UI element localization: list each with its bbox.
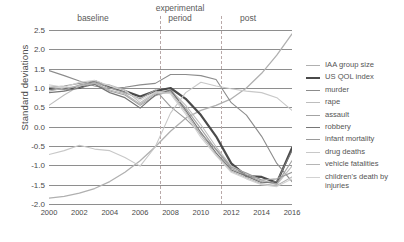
legend-label: robbery	[325, 122, 351, 131]
y-axis-tick: 0.5	[34, 103, 45, 112]
y-axis-tick: -1.5	[31, 180, 45, 189]
legend-swatch-icon	[306, 115, 320, 116]
legend: IAA group sizeUS QOL indexmurderrapeassa…	[306, 60, 404, 193]
legend-swatch-icon	[306, 139, 320, 140]
legend-swatch-icon	[306, 65, 320, 66]
y-axis-title: Standard deviations	[19, 18, 30, 158]
legend-swatch-icon	[306, 90, 320, 91]
y-axis-tick: 1.5	[34, 64, 45, 73]
y-axis-tick: 2.0	[34, 45, 45, 54]
x-axis-tick: 2002	[71, 208, 88, 217]
legend-item[interactable]: vehicle fatalities	[306, 159, 404, 168]
series-line	[49, 84, 292, 183]
legend-label: assault	[325, 110, 349, 119]
series-line	[49, 82, 292, 166]
x-axis-tick: 2014	[253, 208, 270, 217]
series-lines	[49, 30, 292, 204]
plot-area: 2.52.01.51.00.50.0-0.5-1.0-1.5-2.0200020…	[49, 30, 292, 204]
period-label-baseline: baseline	[62, 13, 124, 23]
legend-label: drug deaths	[325, 147, 365, 156]
y-axis-tick: 0.0	[34, 122, 45, 131]
x-axis-tick: 2008	[162, 208, 179, 217]
y-axis-tick: -0.5	[31, 142, 45, 151]
legend-item[interactable]: IAA group size	[306, 60, 404, 69]
series-line	[49, 80, 292, 186]
legend-label: murder	[325, 85, 349, 94]
gridline	[49, 204, 292, 205]
legend-swatch-icon	[306, 77, 320, 79]
y-axis-tick: -1.0	[31, 161, 45, 170]
y-axis-tick: 1.0	[34, 84, 45, 93]
x-axis-tick: 2016	[284, 208, 301, 217]
legend-item[interactable]: drug deaths	[306, 147, 404, 156]
period-label-post: post	[228, 13, 268, 23]
legend-swatch-icon	[306, 127, 320, 128]
legend-label: US QOL index	[325, 72, 374, 81]
series-line	[49, 83, 292, 185]
x-axis-tick: 2000	[41, 208, 58, 217]
legend-item[interactable]: rape	[306, 97, 404, 106]
series-line	[49, 83, 292, 184]
legend-item[interactable]: children's death by injuries	[306, 172, 404, 190]
series-line	[49, 34, 292, 198]
legend-swatch-icon	[306, 177, 320, 178]
period-label-experimental: experimental period	[148, 3, 212, 23]
legend-item[interactable]: robbery	[306, 122, 404, 131]
legend-item[interactable]: assault	[306, 110, 404, 119]
legend-label: rape	[325, 97, 340, 106]
legend-swatch-icon	[306, 102, 320, 103]
legend-item[interactable]: US QOL index	[306, 72, 404, 81]
legend-item[interactable]: murder	[306, 85, 404, 94]
x-axis-tick: 2006	[132, 208, 149, 217]
x-axis-tick: 2012	[223, 208, 240, 217]
legend-label: infant mortality	[325, 134, 374, 143]
legend-item[interactable]: infant mortality	[306, 134, 404, 143]
x-axis-tick: 2004	[101, 208, 118, 217]
legend-label: children's death by injuries	[325, 172, 404, 190]
series-line	[49, 82, 292, 184]
legend-swatch-icon	[306, 164, 320, 165]
legend-label: vehicle fatalities	[325, 159, 379, 168]
x-axis-tick: 2010	[193, 208, 210, 217]
legend-label: IAA group size	[325, 60, 374, 69]
y-axis-tick: 2.5	[34, 26, 45, 35]
chart-container: baseline experimental period post Standa…	[0, 0, 404, 242]
legend-swatch-icon	[306, 152, 320, 153]
